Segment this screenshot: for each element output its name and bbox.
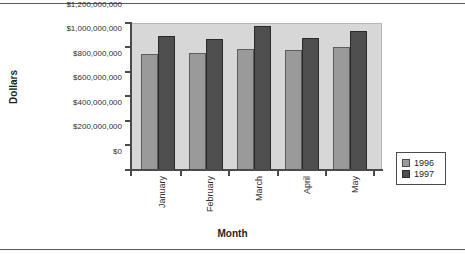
legend-label-1996: 1996 (414, 158, 434, 168)
legend-swatch-icon-1997 (402, 170, 410, 178)
y-tick-label-800000000: $800,000,000 (73, 49, 122, 58)
bar-1996-february (189, 53, 206, 171)
y-tick-label-400000000: $400,000,000 (73, 98, 122, 107)
x-category-label-february: February (205, 176, 215, 212)
legend-label-1997: 1997 (414, 169, 434, 179)
x-category-label-april: April (302, 176, 312, 194)
bar-1996-january (141, 54, 158, 171)
y-tick-label-0: $0 (113, 147, 122, 156)
y-tick-mark-400000000 (125, 120, 131, 122)
y-tick-label-200000000: $200,000,000 (73, 122, 122, 131)
legend-swatch-icon-1996 (402, 159, 410, 167)
x-tick-mark-5 (373, 170, 375, 176)
x-tick-mark-3 (277, 170, 279, 176)
bar-1997-may (350, 31, 367, 171)
y-tick-label-600000000: $600,000,000 (73, 73, 122, 82)
y-tick-mark-200000000 (125, 144, 131, 146)
bar-1997-february (206, 39, 223, 171)
x-tick-mark-0 (130, 170, 132, 176)
x-category-label-may: May (350, 176, 360, 193)
bar-1997-january (158, 36, 175, 171)
x-axis-line (130, 169, 383, 171)
y-tick-mark-800000000 (125, 71, 131, 73)
x-category-label-march: March (254, 176, 264, 201)
y-tick-label-1200000000: $1,200,000,000 (66, 0, 122, 9)
x-tick-mark-1 (180, 170, 182, 176)
x-axis-title: Month (0, 228, 465, 239)
y-tick-mark-600000000 (125, 95, 131, 97)
x-tick-mark-4 (325, 170, 327, 176)
legend-item-1996[interactable]: 1996 (402, 158, 440, 168)
y-tick-label-1000000000: $1,000,000,000 (66, 24, 122, 33)
bar-1996-april (285, 50, 302, 171)
x-tick-mark-2 (228, 170, 230, 176)
y-tick-mark-1200000000 (125, 22, 131, 24)
chart-legend: 1996 1997 (396, 152, 446, 185)
x-category-label-january: January (157, 176, 167, 208)
legend-item-1997[interactable]: 1997 (402, 169, 440, 179)
bar-1996-march (237, 49, 254, 171)
bar-1997-april (302, 38, 319, 171)
bottom-divider-rule (0, 249, 465, 250)
y-axis-title: Dollars (8, 70, 19, 104)
bar-1996-may (333, 47, 350, 171)
y-tick-mark-1000000000 (125, 46, 131, 48)
chart-screenshot: $1,200,000,000 $1,000,000,000 $800,000,0… (0, 0, 465, 254)
bar-1997-march (254, 26, 271, 171)
